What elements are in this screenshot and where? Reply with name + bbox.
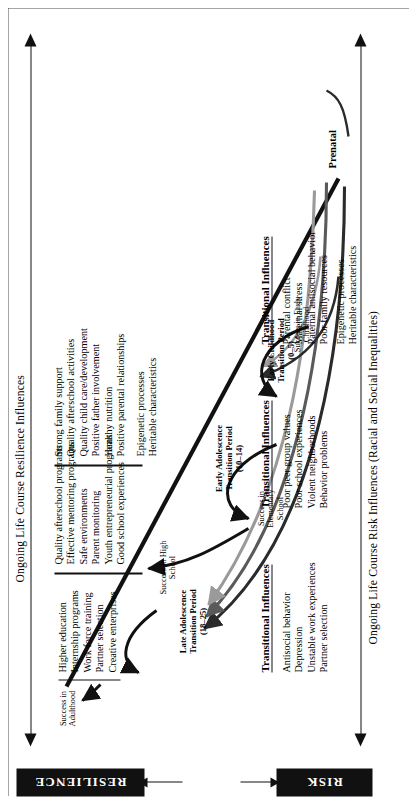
childhood-risk-item-3: Poor family resources <box>317 231 329 344</box>
childhood-resilience-item-1: Quality afterschool activities <box>64 328 76 456</box>
adulthood-risk-item-1: Depression <box>292 562 304 672</box>
resilience-axis-arrow-right <box>24 33 36 46</box>
risk-axis-line <box>360 44 361 734</box>
resilience-axis-label: Ongoing Life Course Resilience Influence… <box>13 375 25 582</box>
childhood-resilience-item-0: Strong family support <box>52 328 64 456</box>
list-resilience-baseline: Epigenetic processes Heritable character… <box>134 357 159 456</box>
risk-baseline-item-1: Heritable characteristics <box>346 245 358 344</box>
adolescence-risk-item-0: Poor peer group values <box>280 409 292 508</box>
adolescence-risk-item-1: Poor school experiences <box>292 409 304 508</box>
childhood-resilience-item-3: Positive father involvement <box>89 328 101 456</box>
rule-adolescence-resilience <box>54 572 142 574</box>
list-childhood-risk: Parental conflict Maternal stress Patern… <box>280 231 330 344</box>
period-early-adolescence-name: Early Adolescence Transition Period <box>214 406 234 510</box>
period-late-adolescence-name: Late Adolescence Transition Period <box>178 572 198 670</box>
resilience-axis-line <box>30 44 31 734</box>
risk-axis-arrow-right <box>354 33 366 46</box>
period-late-adolescence-age: (18–25) <box>198 572 208 670</box>
resilience-endpoint-label: RESILIENCE <box>34 774 126 790</box>
risk-baseline-item-0: Epigenetic processes <box>334 245 346 344</box>
rule-childhood-resilience <box>54 464 142 466</box>
childhood-resilience-item-4: Healthy nutrition <box>102 328 114 456</box>
adulthood-resilience-item-0: Higher education <box>56 590 68 672</box>
node-success-in-adulthood: Success in Adulthood <box>58 678 77 738</box>
adolescence-risk-item-3: Behavior problems <box>317 409 329 508</box>
resilience-feeder-arrowhead <box>138 777 147 787</box>
adulthood-resilience-item-1: Internship programs <box>68 590 80 672</box>
list-childhood-resilience: Strong family support Quality afterschoo… <box>52 328 126 456</box>
node-success-in-adulthood-line2: Adulthood <box>67 678 76 738</box>
childhood-resilience-item-2: Quality child care/development <box>77 328 89 456</box>
list-risk-baseline: Epigenetic processes Heritable character… <box>334 245 359 344</box>
resilience-baseline-item-0: Epigenetic processes <box>134 357 146 456</box>
resilience-baseline-item-1: Heritable characteristics <box>146 357 158 456</box>
childhood-risk-item-2: Paternal antisocial behavior <box>305 231 317 344</box>
list-adolescence-risk: Poor peer group values Poor school exper… <box>280 409 330 508</box>
adulthood-risk-item-0: Antisocial behavior <box>280 562 292 672</box>
resilience-endpoint-box: RESILIENCE <box>16 768 144 796</box>
risk-feeder-arrowhead <box>270 777 279 787</box>
period-early-adolescence-age: (10–14) <box>234 406 244 510</box>
heading-adulthood-risk: Transitional Influences <box>258 564 272 672</box>
heading-adolescence-risk: Transitional Influences <box>258 400 272 508</box>
node-success-in-high-school-line2: School <box>167 534 176 600</box>
resilience-axis-arrow-left <box>24 733 36 746</box>
figure-root: RESILIENCE RISK Ongoing Life Course Resi… <box>0 0 417 804</box>
childhood-risk-item-0: Parental conflict <box>280 231 292 344</box>
adulthood-resilience-item-4: Creative enterprises <box>106 590 118 672</box>
node-success-in-high-school: Success in High School <box>158 534 177 600</box>
childhood-resilience-item-5: Positive parental relationships <box>114 328 126 456</box>
adulthood-risk-item-3: Partner selection <box>317 562 329 672</box>
node-success-in-adulthood-line1: Success in <box>58 678 67 738</box>
resilience-feeder-arrow <box>144 781 182 782</box>
risk-axis-label: Ongoing Life Course Risk Influences (Rac… <box>366 310 378 644</box>
period-late-adolescence: Late Adolescence Transition Period (18–2… <box>178 572 207 670</box>
list-adulthood-risk: Antisocial behavior Depression Unstable … <box>280 562 330 672</box>
period-early-adolescence: Early Adolescence Transition Period (10–… <box>214 406 243 510</box>
risk-endpoint-label: RISK <box>306 774 343 790</box>
risk-axis-arrow-left <box>354 733 366 746</box>
adolescence-risk-item-2: Violent neighborhoods <box>305 409 317 508</box>
adulthood-risk-item-2: Unstable work experiences <box>305 562 317 672</box>
heading-childhood-risk: Transitional Influences <box>258 236 272 344</box>
rule-adulthood-resilience <box>58 679 120 680</box>
adulthood-resilience-item-3: Partner selection <box>93 590 105 672</box>
risk-endpoint-box: RISK <box>276 768 372 796</box>
diagram-canvas: RESILIENCE RISK Ongoing Life Course Resi… <box>8 8 409 796</box>
childhood-risk-item-1: Maternal stress <box>292 231 304 344</box>
origin-prenatal-label: Prenatal <box>326 130 337 168</box>
list-adulthood-resilience: Higher education Internship programs Wor… <box>56 590 118 672</box>
adulthood-resilience-item-2: Work force training <box>81 590 93 672</box>
node-success-in-high-school-line1: Success in High <box>158 534 167 600</box>
